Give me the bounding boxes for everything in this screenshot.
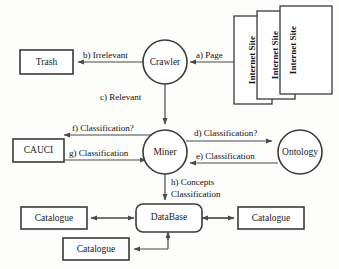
edge-label-d: d) Classification? bbox=[194, 128, 257, 138]
node-catalogue-right[interactable]: Catalogue bbox=[238, 207, 304, 229]
edge-label-g: g) Classification bbox=[69, 148, 129, 158]
edge-label-b: b) Irrelevant bbox=[83, 50, 128, 60]
miner-label: Miner bbox=[153, 147, 177, 157]
internet-site-2-label: Internet Site bbox=[270, 31, 280, 79]
edge-label-h-line1: h) Concepts bbox=[171, 177, 215, 187]
trash-label: Trash bbox=[36, 57, 58, 67]
edge-label-h-line2: Classification bbox=[171, 189, 221, 199]
node-database[interactable]: DataBase bbox=[136, 204, 202, 232]
node-trash[interactable]: Trash bbox=[20, 50, 73, 74]
node-cauci[interactable]: CAUCI bbox=[13, 139, 64, 162]
catalogue-right-label: Catalogue bbox=[252, 213, 291, 223]
database-label: DataBase bbox=[151, 212, 187, 222]
catalogue-bottom-label: Catalogue bbox=[77, 244, 116, 254]
crawler-label: Crawler bbox=[150, 57, 181, 67]
node-ontology[interactable]: Ontology bbox=[278, 130, 322, 174]
internet-site-1-label: Internet Site bbox=[247, 36, 257, 84]
node-internet-site-3[interactable]: Internet Site bbox=[280, 6, 332, 94]
edge-label-a: a) Page bbox=[196, 50, 223, 60]
internet-site-3-label: Internet Site bbox=[288, 26, 298, 74]
node-catalogue-bottom[interactable]: Catalogue bbox=[63, 238, 129, 260]
edge-label-c: c) Relevant bbox=[100, 92, 142, 102]
ontology-label: Ontology bbox=[282, 147, 318, 157]
edge-label-f: f) Classification? bbox=[72, 123, 134, 133]
edge-database-catalogue-bottom bbox=[134, 232, 168, 249]
cauci-label: CAUCI bbox=[24, 145, 54, 155]
node-crawler[interactable]: Crawler bbox=[143, 40, 187, 84]
diagram-canvas: Internet Site Internet Site Internet Sit… bbox=[0, 0, 339, 269]
edge-label-e: e) Classification bbox=[196, 151, 255, 161]
node-miner[interactable]: Miner bbox=[143, 130, 187, 174]
catalogue-left-label: Catalogue bbox=[35, 213, 74, 223]
node-catalogue-left[interactable]: Catalogue bbox=[21, 207, 87, 229]
